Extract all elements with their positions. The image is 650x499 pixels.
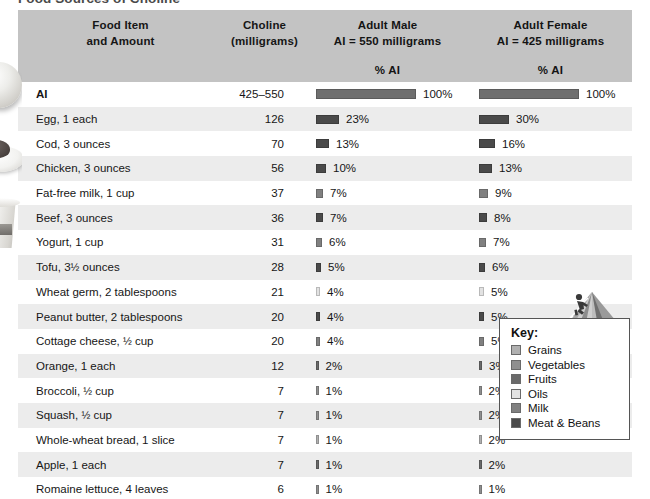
female-percent-label: 30% [516,113,539,125]
male-percent-bar [316,189,323,198]
choline-milligrams: 28 [223,255,306,280]
choline-milligrams: 7 [223,378,306,403]
food-item-name: Broccoli, ½ cup [18,378,223,403]
adult-male-bar-cell: 2% [306,354,469,379]
column-header-choline: Choline (milligrams) [223,10,306,57]
male-percent-label: 13% [336,138,359,150]
key-item-label: Fruits [528,373,557,385]
male-percent-bar [316,287,320,296]
key-swatch-icon [511,418,521,428]
male-percent-bar [316,164,326,173]
male-bar-cell-content: 1% [306,385,469,397]
female-bar-cell-content: 1% [469,483,632,495]
female-percent-label: 5% [491,286,508,298]
female-percent-label: 6% [492,261,509,273]
key-item-list: GrainsVegetablesFruitsOilsMilkMeat & Bea… [511,344,620,429]
adult-female-bar-cell: 7% [469,230,632,255]
column-header-food-line1: Food Item [92,19,148,31]
female-percent-bar [479,460,482,469]
food-item-name: AI [18,82,223,107]
male-bar-cell-content: 6% [306,236,469,248]
male-percent-bar [316,263,321,272]
male-percent-label: 1% [326,483,343,495]
header-row: Food Item and Amount Choline (milligrams… [18,10,632,57]
key-item: Vegetables [511,359,620,371]
female-percent-bar [479,337,484,346]
key-title: Key: [511,326,620,340]
female-percent-bar [479,164,492,173]
choline-milligrams: 56 [223,156,306,181]
column-header-female-line2: AI = 425 milligrams [469,34,632,50]
page-title: Food Sources of Choline [18,0,180,6]
adult-male-bar-cell: 1% [306,477,469,499]
choline-milligrams: 126 [223,107,306,132]
column-header-adult-male: Adult Male AI = 550 milligrams [306,10,469,57]
male-bar-cell-content: 13% [306,138,469,150]
column-header-female-line1: Adult Female [513,19,587,31]
column-header-choline-line1: Choline [243,19,286,31]
food-item-name: Chicken, 3 ounces [18,156,223,181]
key-item: Grains [511,344,620,356]
female-percent-bar [479,89,579,99]
male-bar-cell-content: 1% [306,409,469,421]
adult-male-bar-cell: 4% [306,329,469,354]
male-percent-bar [316,435,319,444]
adult-male-bar-cell: 1% [306,378,469,403]
female-bar-cell-content: 9% [469,187,632,199]
food-item-name: Cod, 3 ounces [18,131,223,156]
female-percent-bar [479,263,485,272]
adult-female-bar-cell: 13% [469,156,632,181]
male-bar-cell-content: 4% [306,311,469,323]
key-swatch-icon [511,389,521,399]
choline-milligrams: 20 [223,304,306,329]
male-bar-cell-content: 5% [306,261,469,273]
table-row: Romaine lettuce, 4 leaves61%1% [18,477,632,499]
table-row: Tofu, 3½ ounces285%6% [18,255,632,280]
key-item-label: Oils [528,388,548,400]
food-item-name: Whole-wheat bread, 1 slice [18,428,223,453]
male-percent-bar [316,337,320,346]
female-percent-bar [479,213,487,222]
female-bar-cell-content: 13% [469,162,632,174]
adult-male-bar-cell: 23% [306,107,469,132]
food-item-name: Apple, 1 each [18,452,223,477]
male-percent-label: 4% [327,335,344,347]
adult-male-bar-cell: 1% [306,403,469,428]
subheader-row: % AI % AI [18,57,632,82]
column-header-male-line2: AI = 550 milligrams [306,34,469,50]
male-bar-cell-content: 2% [306,360,469,372]
female-percent-bar [479,485,482,494]
adult-male-bar-cell: 5% [306,255,469,280]
adult-male-bar-cell: 4% [306,304,469,329]
subheader-male-pct-ai: % AI [306,57,469,82]
male-percent-bar [316,312,320,321]
key-item-label: Grains [528,344,562,356]
female-percent-label: 1% [489,483,506,495]
male-percent-label: 4% [327,286,344,298]
choline-milligrams: 70 [223,131,306,156]
female-bar-cell-content: 6% [469,261,632,273]
male-bar-cell-content: 23% [306,113,469,125]
choline-milligrams: 7 [223,428,306,453]
key-swatch-icon [511,374,521,384]
female-bar-cell-content: 30% [469,113,632,125]
male-percent-bar [316,139,329,148]
key-item-label: Milk [528,402,548,414]
table-row: Egg, 1 each12623%30% [18,107,632,132]
table-row: Yogurt, 1 cup316%7% [18,230,632,255]
adult-male-bar-cell: 10% [306,156,469,181]
female-percent-bar [479,115,509,124]
male-percent-label: 23% [346,113,369,125]
male-percent-label: 6% [329,236,346,248]
male-percent-bar [316,89,416,99]
adult-male-bar-cell: 4% [306,280,469,305]
adult-female-bar-cell: 6% [469,255,632,280]
male-percent-label: 10% [333,162,356,174]
food-item-name: Wheat germ, 2 tablespoons [18,280,223,305]
female-percent-bar [479,287,484,296]
key-item: Oils [511,388,620,400]
female-bar-cell-content: 2% [469,459,632,471]
choline-milligrams: 7 [223,403,306,428]
male-percent-bar [316,411,319,420]
key-swatch-icon [511,360,521,370]
